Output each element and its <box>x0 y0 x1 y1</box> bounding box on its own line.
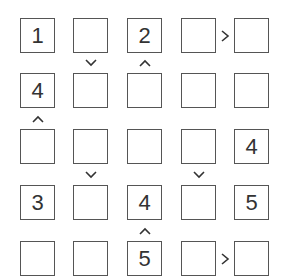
grid-cell-r2-c1[interactable] <box>73 129 108 164</box>
chevron-down-icon <box>193 169 205 181</box>
grid-cell-r1-c3[interactable] <box>181 73 216 108</box>
grid-cell-r1-c0[interactable]: 4 <box>20 73 55 108</box>
chevron-up-icon <box>139 225 151 237</box>
greater-than-icon <box>219 30 231 42</box>
grid-cell-r3-c0[interactable]: 3 <box>20 185 55 220</box>
grid-cell-r2-c4[interactable]: 4 <box>234 129 269 164</box>
grid-cell-r2-c0[interactable] <box>20 129 55 164</box>
grid-cell-r4-c4[interactable] <box>234 241 269 276</box>
grid-cell-r4-c2[interactable]: 5 <box>127 241 162 276</box>
greater-than-icon <box>219 253 231 265</box>
chevron-down-icon <box>85 169 97 181</box>
chevron-up-icon <box>139 57 151 69</box>
grid-cell-r0-c2[interactable]: 2 <box>127 18 162 53</box>
chevron-up-icon <box>32 113 44 125</box>
grid-cell-r3-c2[interactable]: 4 <box>127 185 162 220</box>
grid-cell-r1-c4[interactable] <box>234 73 269 108</box>
grid-cell-r2-c3[interactable] <box>181 129 216 164</box>
grid-cell-r1-c1[interactable] <box>73 73 108 108</box>
grid-cell-r4-c0[interactable] <box>20 241 55 276</box>
grid-cell-r0-c0[interactable]: 1 <box>20 18 55 53</box>
grid-cell-r3-c1[interactable] <box>73 185 108 220</box>
grid-cell-r3-c4[interactable]: 5 <box>234 185 269 220</box>
grid-cell-r3-c3[interactable] <box>181 185 216 220</box>
grid-cell-r0-c4[interactable] <box>234 18 269 53</box>
grid-cell-r4-c3[interactable] <box>181 241 216 276</box>
grid-cell-r2-c2[interactable] <box>127 129 162 164</box>
grid-cell-r1-c2[interactable] <box>127 73 162 108</box>
grid-cell-r4-c1[interactable] <box>73 241 108 276</box>
grid-cell-r0-c3[interactable] <box>181 18 216 53</box>
grid-cell-r0-c1[interactable] <box>73 18 108 53</box>
chevron-down-icon <box>85 57 97 69</box>
